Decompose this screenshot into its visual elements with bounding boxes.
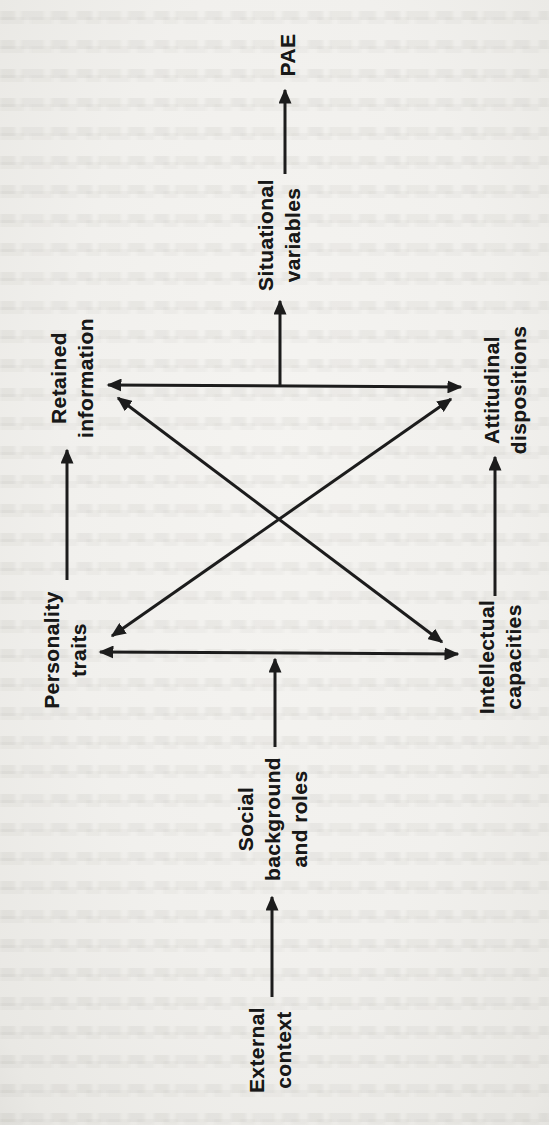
node-intellectual-capacities: Intellectual capacities [473,600,527,715]
node-social-background-and-roles: Social background and roles [232,757,313,881]
diagram-arrows [0,0,549,1125]
node-pae: PAE [274,34,301,77]
edge-personality-intellectual [100,652,458,654]
node-situational-variables: Situational variables [252,179,306,291]
scanned-page: PAE Situational variables Retained infor… [0,0,549,1125]
node-retained-information: Retained information [45,318,99,438]
node-personality-traits: Personality traits [38,591,92,709]
edge-personality-attitudinal [112,399,451,636]
node-attitudinal-dispositions: Attitudinal dispositions [478,326,532,454]
node-external-context: External context [243,1007,297,1093]
edge-retained-attitudinal [108,385,461,387]
